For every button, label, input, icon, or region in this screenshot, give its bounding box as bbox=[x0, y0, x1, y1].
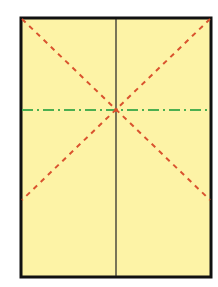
center-intersection-point bbox=[114, 108, 118, 112]
fold-diagram bbox=[0, 0, 218, 287]
